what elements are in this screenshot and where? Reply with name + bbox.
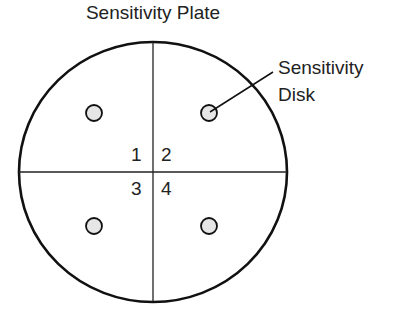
disk-quadrant-4 <box>201 218 217 234</box>
callout-line-1: Sensitivity <box>278 54 364 81</box>
disk-quadrant-1 <box>86 105 102 121</box>
disk-quadrant-3 <box>86 218 102 234</box>
disk-quadrant-2 <box>201 105 217 121</box>
quadrant-label-4: 4 <box>161 178 172 200</box>
callout-label: Sensitivity Disk <box>278 54 364 108</box>
sensitivity-plate-diagram <box>0 0 399 323</box>
quadrant-label-2: 2 <box>161 144 172 166</box>
callout-line-2: Disk <box>278 81 364 108</box>
callout-leader-line <box>210 72 273 112</box>
quadrant-label-3: 3 <box>131 178 142 200</box>
quadrant-label-1: 1 <box>131 144 142 166</box>
